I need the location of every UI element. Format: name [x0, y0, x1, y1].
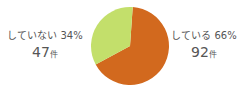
slice-label-shiteinai-title: していない 34%	[2, 31, 88, 42]
slice-label-shiteiru-value: 92件	[161, 44, 247, 61]
slice-label-shiteinai-number: 47	[32, 44, 50, 60]
slice-label-shiteiru-unit: 件	[209, 50, 217, 59]
pie-chart-figure: していない 34% 47件 している 66% 92件	[0, 0, 249, 97]
slice-label-shiteinai-unit: 件	[50, 50, 58, 59]
pie-slices	[91, 7, 169, 85]
slice-label-shiteiru: している 66% 92件	[161, 31, 247, 60]
slice-label-shiteinai: していない 34% 47件	[2, 31, 88, 60]
slice-label-shiteiru-title: している 66%	[161, 31, 247, 42]
slice-label-shiteiru-number: 92	[191, 44, 209, 60]
pie-svg	[91, 7, 169, 85]
pie-graphic	[91, 7, 169, 85]
slice-label-shiteinai-value: 47件	[2, 44, 88, 61]
